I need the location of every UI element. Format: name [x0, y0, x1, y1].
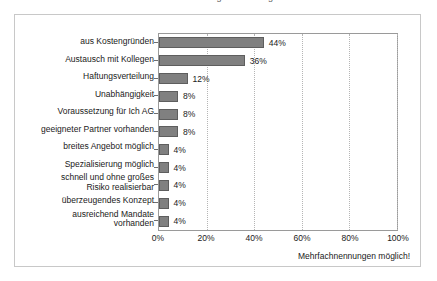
bar-value-label: 44%	[269, 38, 286, 48]
bar-value-label: 4%	[174, 216, 186, 226]
bar-row: 4%	[159, 141, 397, 159]
x-tick-label-0: 0%	[152, 233, 164, 243]
bar-rows: 44%36%12%8%8%8%4%4%4%4%4%	[159, 34, 397, 230]
category-label: Unabhängigkeit	[33, 86, 157, 104]
bar-value-label: 4%	[174, 180, 186, 190]
bar	[159, 162, 169, 173]
category-label: ausreichend Mandate vorhanden	[33, 210, 157, 229]
bar	[159, 180, 169, 191]
bar	[159, 144, 169, 155]
chart-figure-frame: aus KostengründenAustausch mit KollegenH…	[14, 14, 421, 267]
plot-area: 44%36%12%8%8%8%4%4%4%4%4%	[158, 33, 398, 231]
category-label: Haftungsverteilung	[33, 68, 157, 86]
value-axis-tick-labels: 0%20%40%60%80%100%	[158, 233, 398, 247]
category-label: schnell und ohne großes Risiko realisier…	[33, 173, 157, 192]
bar-value-label: 4%	[174, 198, 186, 208]
bar-row: 12%	[159, 70, 397, 88]
bar	[159, 109, 178, 120]
bar-value-label: 12%	[193, 74, 210, 84]
category-axis-labels: aus KostengründenAustausch mit KollegenH…	[33, 33, 157, 229]
bar-row: 8%	[159, 87, 397, 105]
bar	[159, 216, 169, 227]
cropped-title-strip: Abb. Gründe für die Gründung einer Bürog…	[0, 0, 437, 13]
chart-title-cropped: Abb. Gründe für die Gründung einer Bürog…	[95, 0, 324, 2]
category-label: überzeugendes Konzept	[33, 192, 157, 210]
bar-row: 8%	[159, 105, 397, 123]
bar-value-label: 4%	[174, 145, 186, 155]
bar-row: 44%	[159, 34, 397, 52]
bar	[159, 37, 264, 48]
bar-row: 8%	[159, 123, 397, 141]
bar-row: 4%	[159, 177, 397, 195]
bar	[159, 126, 178, 137]
bar	[159, 91, 178, 102]
category-label: aus Kostengründen	[33, 33, 157, 51]
category-label: Spezialisierung möglich	[33, 156, 157, 174]
bar-row: 4%	[159, 212, 397, 230]
bar	[159, 73, 188, 84]
bar-value-label: 4%	[174, 163, 186, 173]
bar-row: 4%	[159, 159, 397, 177]
category-label: breites Angebot möglich	[33, 138, 157, 156]
category-label: geeigneter Partner vorhanden	[33, 121, 157, 139]
gridline-100	[397, 34, 398, 230]
bar-value-label: 8%	[183, 109, 195, 119]
category-label: Voraussetzung für Ich AG	[33, 103, 157, 121]
chart-footnote: Mehrfachnennungen möglich!	[298, 251, 410, 261]
category-label: Austausch mit Kollegen	[33, 51, 157, 69]
bar-row: 36%	[159, 52, 397, 70]
bar-value-label: 8%	[183, 91, 195, 101]
bar	[159, 198, 169, 209]
x-tick-label-40: 40%	[245, 233, 262, 243]
x-tick-label-20: 20%	[197, 233, 214, 243]
bar-row: 4%	[159, 194, 397, 212]
bar	[159, 55, 245, 66]
bar-value-label: 8%	[183, 127, 195, 137]
x-tick-label-80: 80%	[341, 233, 358, 243]
x-tick-label-60: 60%	[293, 233, 310, 243]
x-tick-label-100: 100%	[387, 233, 409, 243]
bar-value-label: 36%	[250, 56, 267, 66]
